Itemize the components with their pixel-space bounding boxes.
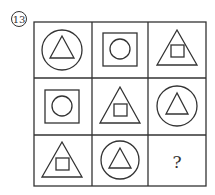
triangle-shape <box>42 142 82 177</box>
cell-circle-triangle <box>101 141 139 179</box>
square-shape <box>114 104 127 116</box>
square-shape <box>45 90 79 123</box>
cell-triangle-square <box>157 30 197 65</box>
cell-square-circle <box>103 33 137 66</box>
triangle-shape <box>109 148 131 168</box>
circle-shape <box>52 96 72 116</box>
cell-circle-triangle <box>157 86 197 126</box>
cell-triangle-square <box>100 87 140 123</box>
square-shape <box>171 45 184 57</box>
square-shape <box>103 33 137 66</box>
triangle-shape <box>166 93 188 114</box>
question-mark: ? <box>172 152 181 172</box>
triangle-shape <box>100 87 140 123</box>
circle-shape <box>110 39 130 59</box>
triangle-shape <box>50 36 74 58</box>
square-shape <box>56 158 69 170</box>
cell-triangle-square <box>42 142 82 177</box>
pattern-grid: ? <box>0 0 215 195</box>
cell-circle-triangle <box>42 30 82 70</box>
triangle-shape <box>157 30 197 65</box>
cell-square-circle <box>45 90 79 123</box>
